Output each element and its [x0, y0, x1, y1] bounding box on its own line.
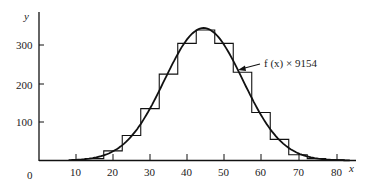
- x-tick-label-50: 50: [218, 166, 230, 178]
- y-tick-label-300: 300: [16, 39, 33, 51]
- y-ticks: [39, 45, 44, 122]
- x-tick-label-10: 10: [70, 166, 82, 178]
- curve-annotation-label: f (x) × 9154: [264, 57, 317, 70]
- x-tick-label-70: 70: [293, 166, 305, 178]
- x-axis-label: x: [348, 162, 354, 174]
- y-tick-label-200: 200: [16, 79, 33, 91]
- x-tick-label-40: 40: [181, 166, 193, 178]
- x-tick-label-20: 20: [107, 166, 119, 178]
- chart: 300 200 100 y 0 10 20 30 40 50 60 70 80 …: [0, 0, 371, 186]
- x-tick-label-80: 80: [331, 166, 343, 178]
- y-axis-label: y: [23, 10, 29, 22]
- x-tick-label-30: 30: [144, 166, 156, 178]
- density-curve: [69, 28, 350, 160]
- y-tick-label-100: 100: [16, 116, 33, 128]
- annotation-arrow: [238, 64, 260, 71]
- histogram-steps: [85, 30, 344, 161]
- origin-label: 0: [27, 169, 33, 181]
- x-tick-label-60: 60: [255, 166, 267, 178]
